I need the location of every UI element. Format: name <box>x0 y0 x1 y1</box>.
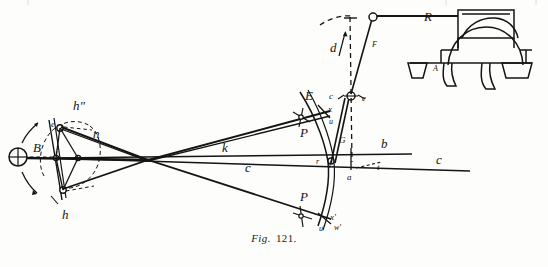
label-tangent-t: t <box>377 162 380 172</box>
figure-caption-number: 121. <box>276 232 297 244</box>
label-point-x-upper: x <box>327 104 332 114</box>
label-point-a: a <box>347 172 352 182</box>
label-rod-R: R <box>423 9 432 24</box>
label-lever-F: F <box>371 40 377 49</box>
label-pivot-P-lower: P <box>299 189 308 204</box>
label-scale-E: E <box>304 88 313 103</box>
ray-bundle-lower <box>63 160 331 219</box>
label-source-B: B <box>33 140 41 155</box>
deflection-arrow-icon <box>339 31 348 56</box>
node-F <box>369 13 377 21</box>
label-point-w-lower: wʹ <box>334 223 341 232</box>
light-source-B <box>9 148 27 166</box>
label-axis-b: b <box>381 136 388 151</box>
label-apparatus-A: A <box>432 64 438 73</box>
label-normal-n: n <box>93 126 100 141</box>
label-ray-h-upper: hʺ <box>73 98 86 113</box>
left-plate-ticks <box>51 196 58 204</box>
label-arm-G: G <box>339 135 346 145</box>
figure-caption: Fig.121. <box>0 232 548 244</box>
page-register-marks <box>28 0 536 5</box>
arm-G <box>331 98 349 163</box>
label-pivot-P-upper: P <box>299 125 308 140</box>
label-point-x-lower: xʹ <box>329 212 337 222</box>
label-point-r: r <box>316 157 320 166</box>
label-point-u-upper: u <box>329 117 333 126</box>
label-deflection-d: d <box>330 40 337 55</box>
label-point-e-right: e <box>362 93 366 103</box>
label-axis-c-right: c <box>436 152 442 167</box>
axis-line-b <box>56 154 412 158</box>
central-beam <box>27 158 150 160</box>
label-point-e-left: e <box>51 119 55 129</box>
lever-arm-F <box>351 19 372 94</box>
figure-caption-prefix: Fig. <box>251 232 271 244</box>
figure-canvas: B i e hʺ h n k c E P x u r f a G e c F R… <box>0 0 548 267</box>
label-ray-k: k <box>222 140 228 155</box>
top-dashed-arc <box>320 16 352 25</box>
label-point-c-right: c <box>329 91 333 101</box>
label-axis-c-mid: c <box>245 160 251 175</box>
figure-121: B i e hʺ h n k c E P x u r f a G e c F R… <box>0 0 548 267</box>
ray-bundle-upper <box>61 111 330 161</box>
label-ray-h-lower: h <box>62 207 69 222</box>
